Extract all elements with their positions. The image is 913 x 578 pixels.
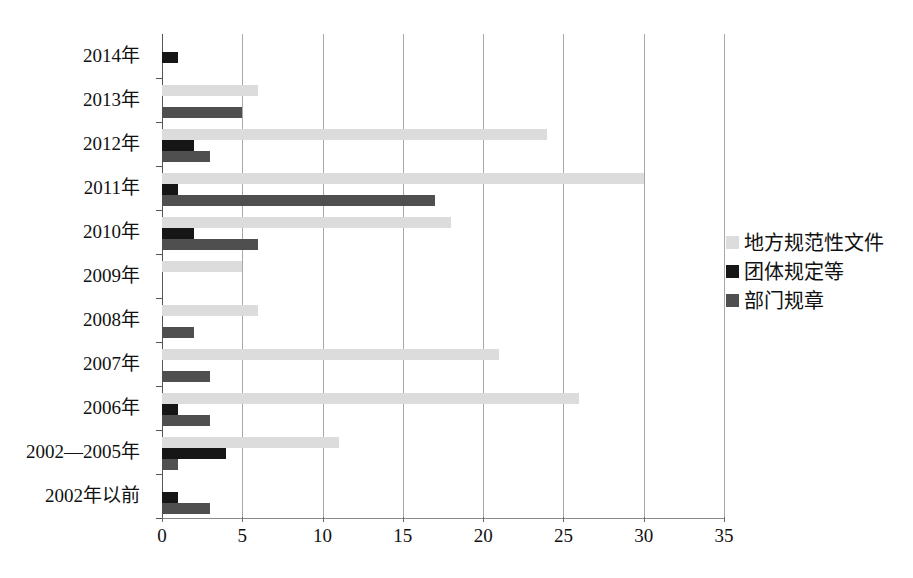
bar-group bbox=[162, 430, 724, 474]
x-axis-tick bbox=[162, 517, 163, 522]
plot-area bbox=[162, 34, 724, 518]
y-axis-label: 2002—2005年 bbox=[0, 442, 152, 461]
x-axis-tick bbox=[483, 517, 484, 522]
bar bbox=[162, 492, 178, 503]
x-axis-label: 0 bbox=[157, 526, 167, 545]
legend-item[interactable]: 团体规定等 bbox=[726, 257, 912, 286]
bar bbox=[162, 415, 210, 426]
bar-group bbox=[162, 254, 724, 298]
bar-group bbox=[162, 210, 724, 254]
x-axis-tick bbox=[563, 517, 564, 522]
bar bbox=[162, 173, 644, 184]
bar bbox=[162, 52, 178, 63]
x-axis-label: 25 bbox=[554, 526, 573, 545]
bar bbox=[162, 184, 178, 195]
bar-group bbox=[162, 474, 724, 518]
bar bbox=[162, 327, 194, 338]
gridline-35 bbox=[724, 34, 725, 518]
y-axis-label: 2007年 bbox=[0, 354, 152, 373]
x-axis-tick bbox=[242, 517, 243, 522]
legend-item-label: 部门规章 bbox=[744, 291, 824, 311]
bar bbox=[162, 228, 194, 239]
legend-swatch-icon bbox=[726, 294, 739, 307]
bar bbox=[162, 151, 210, 162]
y-axis-label: 2006年 bbox=[0, 398, 152, 417]
x-axis-line bbox=[162, 518, 724, 519]
bar bbox=[162, 217, 451, 228]
y-axis-label: 2008年 bbox=[0, 310, 152, 329]
x-axis-label: 20 bbox=[474, 526, 493, 545]
chart-legend: 地方规范性文件团体规定等部门规章 bbox=[726, 228, 912, 315]
bar-group bbox=[162, 386, 724, 430]
legend-swatch-icon bbox=[726, 265, 739, 278]
y-axis-category-labels: 2014年2013年2012年2011年2010年2009年2008年2007年… bbox=[0, 34, 152, 518]
bar-group bbox=[162, 122, 724, 166]
bar-group bbox=[162, 298, 724, 342]
y-axis-label: 2002年以前 bbox=[0, 486, 152, 505]
x-axis-tick bbox=[403, 517, 404, 522]
bar bbox=[162, 261, 242, 272]
x-axis-label: 10 bbox=[313, 526, 332, 545]
x-axis-tick bbox=[724, 517, 725, 522]
legend-item-label: 团体规定等 bbox=[744, 262, 844, 282]
bar bbox=[162, 448, 226, 459]
y-axis-label: 2013年 bbox=[0, 90, 152, 109]
y-axis-label: 2012年 bbox=[0, 134, 152, 153]
y-axis-label: 2010年 bbox=[0, 222, 152, 241]
y-axis-label: 2009年 bbox=[0, 266, 152, 285]
bar bbox=[162, 459, 178, 470]
bar bbox=[162, 305, 258, 316]
y-axis-label: 2011年 bbox=[0, 178, 152, 197]
bar bbox=[162, 393, 579, 404]
bar bbox=[162, 129, 547, 140]
bar-group bbox=[162, 166, 724, 210]
x-axis-label: 5 bbox=[238, 526, 248, 545]
bar-group bbox=[162, 78, 724, 122]
x-axis-tick bbox=[323, 517, 324, 522]
bar bbox=[162, 107, 242, 118]
y-axis-label: 2014年 bbox=[0, 46, 152, 65]
legend-item[interactable]: 地方规范性文件 bbox=[726, 228, 912, 257]
bar bbox=[162, 85, 258, 96]
bar-group bbox=[162, 34, 724, 78]
x-axis-tick bbox=[644, 517, 645, 522]
legend-swatch-icon bbox=[726, 236, 739, 249]
bar bbox=[162, 140, 194, 151]
bar bbox=[162, 371, 210, 382]
bar bbox=[162, 195, 435, 206]
bar bbox=[162, 239, 258, 250]
bar bbox=[162, 404, 178, 415]
bar bbox=[162, 437, 339, 448]
bar-chart: 2014年2013年2012年2011年2010年2009年2008年2007年… bbox=[0, 0, 913, 578]
x-axis-tick-labels: 05101520253035 bbox=[162, 522, 724, 552]
bar bbox=[162, 503, 210, 514]
x-axis-label: 30 bbox=[634, 526, 653, 545]
x-axis-label: 35 bbox=[715, 526, 734, 545]
x-axis-label: 15 bbox=[393, 526, 412, 545]
bar bbox=[162, 349, 499, 360]
bar-group bbox=[162, 342, 724, 386]
legend-item-label: 地方规范性文件 bbox=[744, 233, 884, 253]
legend-item[interactable]: 部门规章 bbox=[726, 286, 912, 315]
